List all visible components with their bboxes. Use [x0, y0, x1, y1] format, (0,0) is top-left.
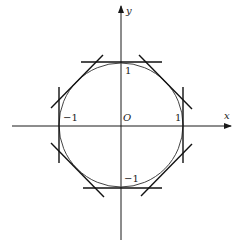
x-axis-label: x: [224, 111, 230, 121]
tangent-line-lower-right: [141, 144, 192, 196]
tangent-line-lower-left: [51, 143, 104, 197]
x-tick-label-neg-one: −1: [63, 113, 78, 123]
y-tick-label-neg-one: −1: [124, 174, 139, 184]
x-tick-label-pos-one: 1: [175, 113, 181, 123]
y-axis-label: y: [126, 6, 132, 16]
y-tick-label-pos-one: 1: [125, 66, 131, 76]
tangent-line-upper-right: [139, 55, 192, 109]
tangent-line-upper-left: [51, 55, 103, 108]
coordinate-diagram: [0, 0, 239, 245]
origin-label: O: [123, 113, 131, 123]
